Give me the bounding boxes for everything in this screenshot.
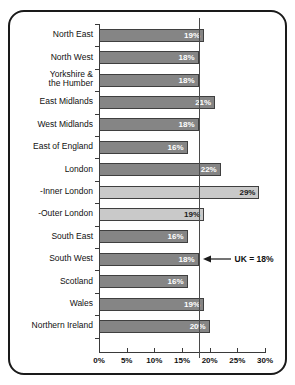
category-label: North East xyxy=(14,30,93,40)
bar-value-label: 18% xyxy=(99,121,195,129)
x-axis-tick xyxy=(99,348,100,352)
y-axis-tick xyxy=(95,158,99,159)
category-label: -Inner London xyxy=(14,187,93,197)
bar-value-label: 19% xyxy=(99,301,200,309)
bar-value-label: 20% xyxy=(99,323,206,331)
y-axis-tick xyxy=(95,91,99,92)
x-axis-tick xyxy=(127,348,128,352)
category-label: South West xyxy=(14,254,93,264)
y-axis-tick xyxy=(95,136,99,137)
category-label: Northern Ireland xyxy=(14,321,93,331)
x-axis-tick xyxy=(154,348,155,352)
category-label: East Midlands xyxy=(14,97,93,107)
y-axis-tick xyxy=(95,181,99,182)
y-axis-tick xyxy=(95,338,99,339)
y-axis-tick xyxy=(95,270,99,271)
x-axis-tick xyxy=(182,348,183,352)
bar-value-label: 18% xyxy=(99,256,195,264)
bar-chart: North East19%North West18%Yorkshire & th… xyxy=(0,0,295,385)
y-axis-tick xyxy=(95,293,99,294)
y-axis-tick xyxy=(95,226,99,227)
y-axis-tick xyxy=(95,203,99,204)
bar-value-label: 19% xyxy=(99,211,200,219)
x-axis-tick xyxy=(237,348,238,352)
category-label: North West xyxy=(14,53,93,63)
category-label: West Midlands xyxy=(14,120,93,130)
category-label: Wales xyxy=(14,299,93,309)
x-axis-tick-label: 30% xyxy=(249,356,281,365)
bar-value-label: 18% xyxy=(99,54,195,62)
bar-value-label: 29% xyxy=(99,189,255,197)
x-axis-tick xyxy=(210,348,211,352)
bar-value-label: 21% xyxy=(99,99,211,107)
y-axis-tick xyxy=(95,248,99,249)
bar-value-label: 18% xyxy=(99,77,195,85)
x-axis-tick xyxy=(265,348,266,352)
annotation-arrow-icon xyxy=(203,254,233,264)
bar-value-label: 16% xyxy=(99,233,184,241)
y-axis-tick xyxy=(95,69,99,70)
bar-value-label: 19% xyxy=(99,32,200,40)
uk-reference-annotation: UK = 18% xyxy=(235,254,274,264)
y-axis-tick xyxy=(95,114,99,115)
category-label: London xyxy=(14,165,93,175)
bar-value-label: 16% xyxy=(99,278,184,286)
category-label: East of England xyxy=(14,142,93,152)
y-axis-tick xyxy=(95,46,99,47)
category-label: -Outer London xyxy=(14,209,93,219)
y-axis-tick xyxy=(95,315,99,316)
category-label: Scotland xyxy=(14,277,93,287)
x-axis-line xyxy=(99,352,266,353)
uk-reference-line xyxy=(199,18,200,358)
category-label: Yorkshire & the Humber xyxy=(14,70,93,89)
category-label: South East xyxy=(14,232,93,242)
y-axis-tick xyxy=(95,24,99,25)
bar-value-label: 16% xyxy=(99,144,184,152)
